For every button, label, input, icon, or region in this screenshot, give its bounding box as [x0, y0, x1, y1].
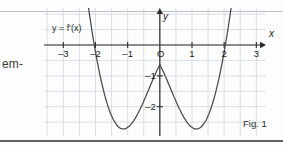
y-axis-label: y — [163, 11, 168, 22]
y-tick-label: –1 — [142, 70, 156, 81]
x-tick-label: –1 — [120, 48, 136, 59]
x-axis-label: x — [269, 28, 274, 39]
figure-page: em- y = f'(x) x y –3–2–1O123 –1–2 Fig. 1 — [0, 0, 283, 150]
x-tick-label: 3 — [248, 48, 264, 59]
x-tick-label: –3 — [55, 48, 71, 59]
curve-equation-label: y = f'(x) — [52, 23, 81, 33]
x-tick-label: 2 — [216, 48, 232, 59]
x-tick-label: 1 — [184, 48, 200, 59]
bottom-divider — [0, 140, 283, 142]
y-tick-label: –2 — [142, 101, 156, 112]
x-tick-label: –2 — [87, 48, 103, 59]
x-tick-label: O — [153, 48, 169, 59]
figure-caption: Fig. 1 — [243, 118, 267, 129]
margin-text-fragment: em- — [2, 57, 23, 71]
